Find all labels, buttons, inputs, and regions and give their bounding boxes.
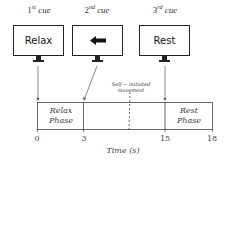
arrow-head-icon: [37, 98, 40, 101]
arrow-head-icon: [164, 98, 167, 101]
phase-line-1: Rest: [168, 106, 210, 116]
phase-line-2: Phase: [168, 116, 210, 126]
arrow-head-icon: [83, 97, 86, 101]
tick-label-18: 18: [207, 134, 217, 143]
tick-label-0: 0: [34, 134, 39, 143]
movement-dashed-line: [129, 92, 130, 130]
self-initiated-movement-label: Self − initiated movement: [112, 81, 150, 93]
rest-phase-label: Rest Phase: [168, 106, 210, 126]
axis-title: Time (s): [106, 146, 139, 155]
relax-phase-label: Relax Phase: [41, 106, 81, 126]
annotation-line-2: movement: [112, 87, 150, 93]
cue-2-connector: [85, 66, 98, 99]
tick-label-3: 3: [81, 134, 86, 143]
phase-line-1: Relax: [41, 106, 81, 116]
tick-label-15: 15: [160, 134, 170, 143]
phase-line-2: Phase: [41, 116, 81, 126]
